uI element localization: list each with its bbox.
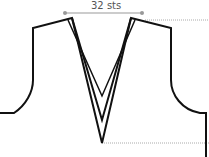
neck-width-measure — [63, 11, 144, 15]
v-neck-point — [72, 18, 131, 143]
garment-schematic — [0, 0, 209, 157]
neckband-outline — [68, 20, 135, 96]
